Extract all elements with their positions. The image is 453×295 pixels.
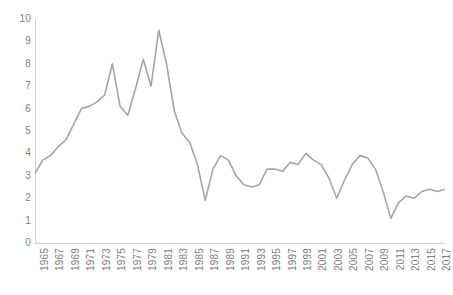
x-tick-label-2009: 2009 [380, 248, 390, 282]
x-tick-label-1965: 1965 [40, 248, 50, 282]
x-tick-label-1969: 1969 [71, 248, 81, 282]
x-tick-label-1979: 1979 [148, 248, 158, 282]
x-tick-label-1977: 1977 [133, 248, 143, 282]
line-chart: 012345678910 196519671969197119731975197… [0, 0, 453, 295]
x-tick-label-2001: 2001 [318, 248, 328, 282]
x-tick-label-1989: 1989 [226, 248, 236, 282]
x-tick-label-2015: 2015 [427, 248, 437, 282]
x-tick-label-1983: 1983 [179, 248, 189, 282]
x-tick-label-2003: 2003 [334, 248, 344, 282]
x-axis-tick-labels: 1965196719691971197319751977197919811983… [0, 0, 453, 295]
x-tick-label-1999: 1999 [303, 248, 313, 282]
x-tick-label-1987: 1987 [210, 248, 220, 282]
x-tick-label-1967: 1967 [55, 248, 65, 282]
x-tick-label-2005: 2005 [349, 248, 359, 282]
x-tick-label-1973: 1973 [102, 248, 112, 282]
x-tick-label-2013: 2013 [411, 248, 421, 282]
x-tick-label-1995: 1995 [272, 248, 282, 282]
x-tick-label-1997: 1997 [288, 248, 298, 282]
x-tick-label-2017: 2017 [442, 248, 452, 282]
x-tick-label-1975: 1975 [117, 248, 127, 282]
x-tick-label-1991: 1991 [241, 248, 251, 282]
x-tick-label-1985: 1985 [195, 248, 205, 282]
x-tick-label-1993: 1993 [257, 248, 267, 282]
x-tick-label-2011: 2011 [396, 248, 406, 282]
x-tick-label-2007: 2007 [365, 248, 375, 282]
x-tick-label-1971: 1971 [86, 248, 96, 282]
x-tick-label-1981: 1981 [164, 248, 174, 282]
